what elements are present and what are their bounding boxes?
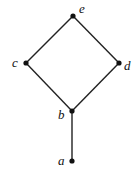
node-d (116, 60, 121, 65)
node-c (23, 60, 28, 65)
label-c: c (12, 55, 18, 70)
edge-e-c (26, 16, 73, 63)
label-a: a (58, 153, 65, 168)
edges (26, 16, 119, 161)
edge-d-b (72, 63, 119, 111)
node-e (70, 13, 75, 18)
edge-e-d (73, 16, 119, 63)
label-e: e (79, 1, 85, 16)
edge-c-b (26, 63, 72, 111)
node-a (69, 158, 74, 163)
node-b (69, 108, 74, 113)
label-d: d (124, 58, 131, 73)
label-b: b (58, 107, 65, 122)
hasse-diagram: ecdba (0, 0, 138, 173)
